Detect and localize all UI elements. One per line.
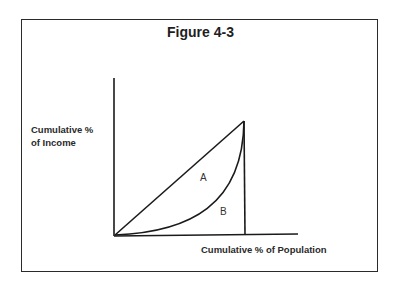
x-axis bbox=[114, 234, 298, 236]
region-b-label: B bbox=[220, 206, 227, 217]
equality-line bbox=[115, 121, 244, 235]
x-axis-label: Cumulative % of Population bbox=[201, 244, 327, 255]
region-a-label: A bbox=[200, 172, 207, 183]
vertical-boundary-line bbox=[244, 121, 245, 235]
